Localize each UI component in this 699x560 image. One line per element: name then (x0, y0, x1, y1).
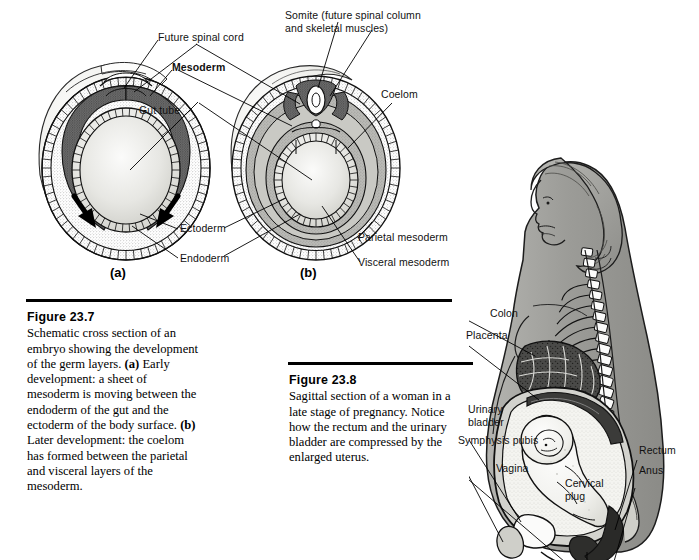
label-gut-tube: Gut tube (139, 104, 180, 117)
label-future-spinal-cord: Future spinal cord (158, 31, 244, 44)
caption-tag-b: (b) (180, 418, 195, 432)
label-somite-line2: and skeletal muscles) (285, 22, 388, 35)
label-coelom: Coelom (381, 88, 418, 101)
label-visceral-mesoderm: Visceral mesoderm (358, 256, 449, 269)
label-vagina: Vagina (496, 462, 529, 475)
label-urinary-bladder-line2: bladder (468, 416, 504, 429)
label-somite-line1: Somite (future spinal column (285, 9, 421, 22)
caption-text-part1: Schematic cross section of an embryo sho… (27, 326, 198, 371)
label-cervical-plug-line2: plug (565, 490, 585, 503)
label-cervical-plug-line1: Cervical (565, 477, 604, 490)
figure-23-7-caption: Figure 23.7Schematic cross section of an… (27, 310, 202, 495)
label-ectoderm: Ectoderm (180, 222, 226, 235)
panel-letter-b: (b) (300, 265, 317, 280)
label-urinary-bladder-line1: Urinary (468, 403, 503, 416)
label-placenta: Placenta (466, 329, 508, 342)
figure-23-7-number: Figure 23.7 (27, 310, 202, 325)
label-symphysis-pubis: Symphysis pubis (458, 434, 538, 447)
caption-rule-23-8 (288, 362, 473, 365)
label-endoderm: Endoderm (180, 252, 229, 265)
label-parietal-mesoderm: Parietal mesoderm (358, 231, 448, 244)
figure-23-8-caption: Figure 23.8Sagittal section of a woman i… (289, 373, 461, 466)
label-anus: Anus (639, 464, 663, 477)
caption-tag-a: (a) (125, 357, 140, 371)
label-mesoderm: Mesoderm (172, 61, 225, 74)
caption-rule-23-7 (26, 299, 452, 302)
figure-23-8-number: Figure 23.8 (289, 373, 461, 388)
caption-text-part3: Later development: the coelom has formed… (27, 433, 188, 493)
label-rectum: Rectum (639, 444, 676, 457)
label-colon: Colon (490, 307, 518, 320)
panel-letter-a: (a) (110, 265, 126, 280)
figure-23-8-caption-text: Sagittal section of a woman in a late st… (289, 389, 451, 464)
